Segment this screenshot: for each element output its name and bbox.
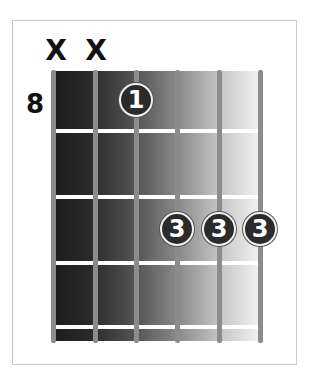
mute-marker-string-2: X [84,38,108,64]
fretboard [53,71,262,341]
finger-dot-string-6: 3 [243,212,277,246]
finger-dot-string-5: 3 [202,212,236,246]
start-fret-label: 8 [24,90,46,118]
string-5 [217,70,222,343]
finger-dot-string-4: 3 [160,212,194,246]
fret-line-4 [53,325,262,329]
string-4 [175,70,180,343]
fret-line-2 [53,195,262,199]
fret-line-1 [53,129,262,133]
finger-dot-string-3: 1 [119,83,153,117]
string-1 [51,70,56,343]
string-6 [258,70,263,343]
string-2 [93,70,98,343]
fret-line-3 [53,261,262,265]
mute-marker-string-1: X [44,38,68,64]
